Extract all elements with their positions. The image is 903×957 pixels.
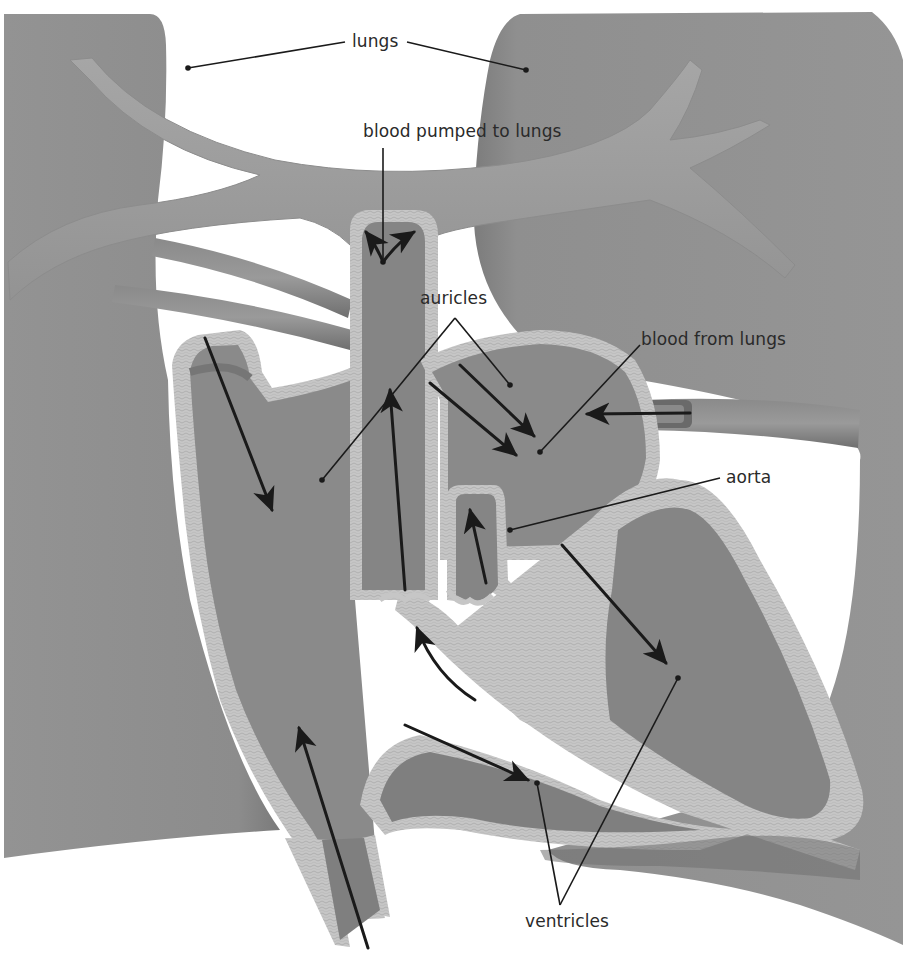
pulmonary-trunk-lumen — [362, 222, 425, 590]
label-lungs: lungs — [352, 33, 398, 50]
label-blood-from-lungs: blood from lungs — [641, 331, 786, 348]
label-auricles: auricles — [420, 290, 487, 307]
label-blood-pumped-to-lungs: blood pumped to lungs — [363, 123, 562, 140]
arrow-from-lungs-icon — [587, 413, 690, 414]
label-aorta: aorta — [726, 469, 771, 486]
heart-diagram: lungs blood pumped to lungs auricles blo… — [0, 0, 903, 957]
label-ventricles: ventricles — [525, 913, 609, 930]
